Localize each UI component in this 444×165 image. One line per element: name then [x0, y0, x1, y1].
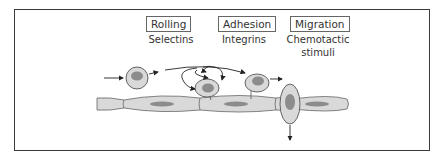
extravasation-illustration — [0, 0, 444, 165]
endothelial-cell — [97, 98, 125, 111]
